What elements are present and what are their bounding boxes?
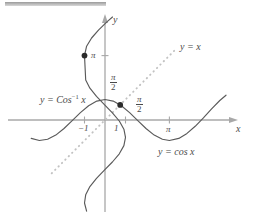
point-neg-one-pi [82, 53, 88, 59]
y-tick-label-pi: π [91, 51, 96, 60]
x-tick-label-one: 1 [114, 124, 119, 133]
identity-line-label: y = x [180, 42, 201, 52]
point-intersection [117, 102, 123, 108]
x-axis-label: x [236, 124, 240, 134]
y-tick-label-pi-over-2: π 2 [110, 73, 117, 92]
y-pi-over-2-numerator: π [110, 73, 117, 82]
cosine-curve-label: y = cos x [158, 147, 194, 157]
inverse-cosine-curve-label: y = Cos−1 x [40, 94, 86, 105]
inverse-cosine-label-exponent: −1 [72, 93, 79, 100]
inverse-cosine-label-variable: x [81, 94, 85, 105]
x-pi-over-2-numerator: π [136, 95, 143, 104]
y-axis-label: y [113, 15, 117, 25]
tick-marks-group [85, 56, 170, 124]
x-tick-label-pi: π [166, 125, 171, 134]
x-tick-label-neg-one: −1 [78, 124, 89, 133]
inverse-cosine-label-main: y = Cos [40, 94, 72, 105]
plot-canvas [0, 0, 254, 223]
x-tick-label-pi-over-2: π 2 [136, 95, 143, 114]
axes-group [8, 14, 238, 212]
y-pi-over-2-denominator: 2 [110, 82, 117, 92]
inverse-cosine-figure: y x y = x y = cos x y = Cos−1 x π π 2 π … [0, 0, 254, 223]
identity-line-y-equals-x [52, 50, 175, 173]
x-pi-over-2-denominator: 2 [136, 104, 143, 114]
